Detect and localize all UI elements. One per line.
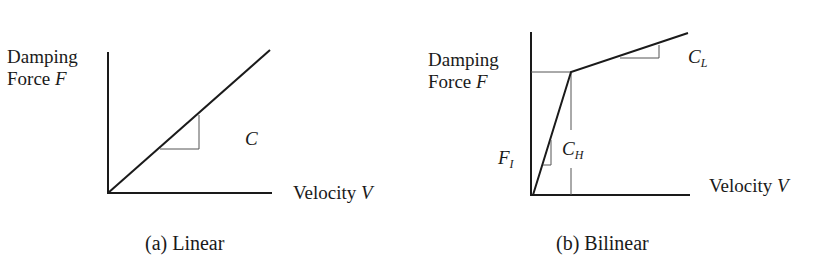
panel-a-x-label-var: V bbox=[361, 182, 373, 203]
panel-a-x-label-text: Velocity bbox=[293, 182, 361, 203]
panel-b-high-slope-sub: H bbox=[575, 148, 584, 162]
panel-a-x-label: Velocity V bbox=[293, 182, 373, 204]
panel-b-caption: (b) Bilinear bbox=[556, 232, 649, 255]
panel-a-slope-label: C bbox=[245, 128, 258, 150]
panel-b-y-label-text: Force bbox=[428, 71, 476, 92]
panel-b-yield-force-sub: I bbox=[510, 157, 514, 171]
panel-b-y-label-line2: Force F bbox=[428, 71, 499, 93]
panel-b-low-slope-main: C bbox=[688, 46, 701, 67]
panel-b-x-label: Velocity V bbox=[709, 175, 789, 197]
panel-b-low-slope-label: CL bbox=[688, 46, 707, 74]
panel-a-caption: (a) Linear bbox=[145, 232, 224, 255]
panel-b-y-label-line1: Damping bbox=[428, 49, 499, 71]
panel-a-linear-curve bbox=[108, 50, 270, 193]
panel-a bbox=[107, 50, 272, 194]
panel-a-slope-triangle bbox=[160, 115, 199, 149]
panel-b-yield-force-main: F bbox=[498, 147, 510, 168]
panel-b-y-label: Damping Force F bbox=[428, 49, 499, 93]
damping-diagrams bbox=[0, 0, 819, 261]
panel-b-low-slope-triangle bbox=[620, 45, 659, 58]
panel-b-bilinear-curve bbox=[533, 33, 688, 195]
panel-a-y-label: Damping Force F bbox=[7, 46, 78, 90]
panel-b-yield-force-label: FI bbox=[498, 147, 514, 175]
panel-b-high-slope-label: CH bbox=[562, 138, 583, 166]
panel-b-high-slope-main: C bbox=[562, 138, 575, 159]
panel-b-low-slope-sub: L bbox=[701, 56, 708, 70]
panel-a-y-label-line1: Damping bbox=[7, 46, 78, 68]
panel-a-y-label-line2: Force F bbox=[7, 68, 78, 90]
panel-b-x-label-text: Velocity bbox=[709, 175, 777, 196]
panel-b bbox=[530, 32, 690, 196]
panel-a-y-label-text: Force bbox=[7, 68, 55, 89]
panel-a-y-label-var: F bbox=[55, 68, 67, 89]
panel-b-y-label-var: F bbox=[476, 71, 488, 92]
panel-b-x-label-var: V bbox=[777, 175, 789, 196]
